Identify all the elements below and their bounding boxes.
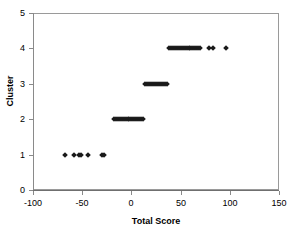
y-axis-line	[33, 13, 34, 191]
scatter-chart: 012345 -100-50050100150 Cluster Total Sc…	[0, 0, 291, 238]
y-tick-mark	[29, 155, 33, 156]
x-tick-mark	[33, 191, 34, 195]
x-tick-label: 150	[259, 199, 291, 208]
x-tick-mark	[279, 191, 280, 195]
x-tick-mark	[181, 191, 182, 195]
y-tick-mark	[29, 13, 33, 14]
x-axis-title: Total Score	[33, 216, 279, 226]
x-axis-line	[33, 190, 279, 191]
x-tick-mark	[131, 191, 132, 195]
y-tick-mark	[29, 119, 33, 120]
y-tick-label: 0	[1, 186, 25, 195]
y-tick-label: 1	[1, 151, 25, 160]
x-tick-mark	[82, 191, 83, 195]
y-tick-mark	[29, 84, 33, 85]
y-tick-mark	[29, 48, 33, 49]
y-axis-title: Cluster	[5, 61, 15, 121]
x-tick-label: -50	[62, 199, 102, 208]
y-tick-label: 5	[1, 9, 25, 18]
x-tick-mark	[230, 191, 231, 195]
y-tick-label: 4	[1, 44, 25, 53]
plot-area	[33, 13, 279, 190]
x-tick-label: -100	[13, 199, 53, 208]
x-tick-label: 0	[111, 199, 151, 208]
x-tick-label: 50	[161, 199, 201, 208]
x-tick-label: 100	[210, 199, 250, 208]
